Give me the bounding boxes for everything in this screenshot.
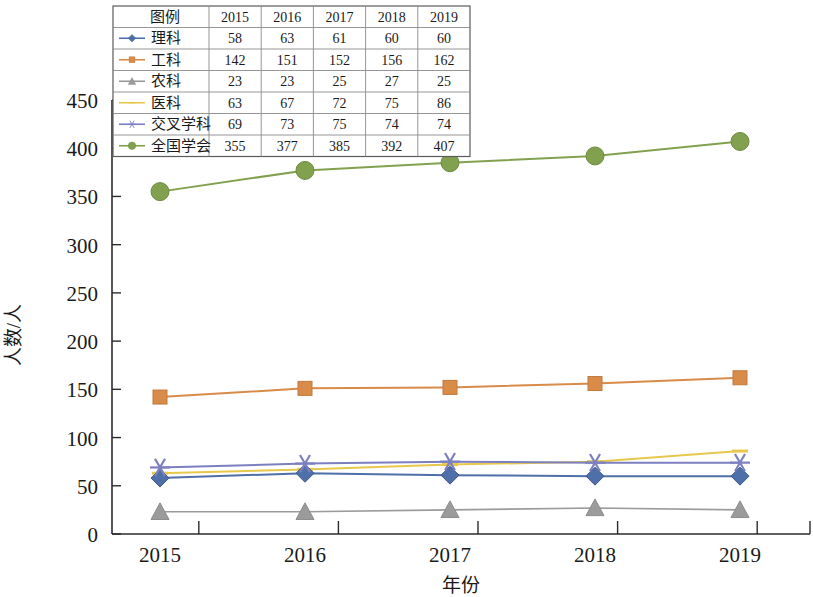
- y-tick-label: 350: [67, 185, 99, 209]
- data-point-marker: [731, 467, 749, 485]
- data-point-marker: [296, 161, 314, 179]
- data-point-marker: [128, 142, 136, 150]
- legend-column-header: 2019: [430, 10, 458, 25]
- line-chart: 050100150200250300350400450 201520162017…: [0, 0, 813, 597]
- data-point-marker: [586, 147, 604, 165]
- legend-value-cell: 151: [277, 53, 298, 68]
- data-point-marker: [441, 466, 459, 484]
- series-工科: [153, 371, 747, 404]
- legend-series-name: 农科: [151, 73, 181, 89]
- legend-value-cell: 60: [437, 31, 451, 46]
- data-point-marker: [733, 371, 747, 385]
- series-layer: [150, 132, 750, 519]
- x-axis-title: 年份: [442, 575, 480, 596]
- legend-value-cell: 27: [385, 74, 399, 89]
- data-point-marker: [129, 57, 135, 63]
- legend-series-name: 理科: [151, 30, 181, 46]
- data-point-marker: [586, 467, 604, 485]
- legend-value-cell: 61: [333, 31, 347, 46]
- legend-value-cell: 25: [333, 74, 347, 89]
- legend-value-cell: 156: [381, 53, 402, 68]
- data-point-marker: [731, 132, 749, 150]
- series-农科: [151, 499, 749, 520]
- legend-value-cell: 63: [280, 31, 294, 46]
- legend-value-cell: 25: [437, 74, 451, 89]
- y-tick-label: 250: [67, 282, 99, 306]
- legend-column-header: 2015: [221, 10, 249, 25]
- y-tick-label: 200: [67, 330, 99, 354]
- x-tick-label: 2018: [574, 543, 616, 567]
- y-axis: 050100150200250300350400450: [67, 89, 122, 547]
- series-理科: [151, 464, 749, 487]
- legend-series-name: 工科: [151, 52, 181, 68]
- legend-series-name: 全国学会: [151, 137, 211, 154]
- data-point-marker: [588, 377, 602, 391]
- legend-value-cell: 67: [280, 96, 294, 111]
- legend-value-cell: 355: [225, 139, 246, 154]
- data-point-marker: [151, 183, 169, 201]
- y-tick-label: 150: [67, 378, 99, 402]
- y-tick-label: 100: [67, 427, 99, 451]
- legend-column-header: 2016: [273, 10, 301, 25]
- legend-value-cell: 60: [385, 31, 399, 46]
- y-tick-label: 50: [77, 475, 98, 499]
- data-point-marker: [296, 464, 314, 482]
- legend-value-cell: 75: [333, 117, 347, 132]
- legend-value-cell: 162: [433, 53, 454, 68]
- y-tick-label: 450: [67, 89, 99, 113]
- x-tick-label: 2017: [429, 543, 471, 567]
- legend-value-cell: 142: [225, 53, 246, 68]
- legend-value-cell: 74: [385, 117, 399, 132]
- legend-column-header: 2017: [326, 10, 354, 25]
- data-point-marker: [153, 390, 167, 404]
- data-point-marker: [443, 380, 457, 394]
- legend-value-cell: 23: [228, 74, 242, 89]
- legend-column-header: 2018: [378, 10, 406, 25]
- y-tick-label: 400: [67, 137, 99, 161]
- legend-series-name: 医科: [151, 95, 181, 111]
- legend-value-cell: 74: [437, 117, 451, 132]
- chart-canvas: 050100150200250300350400450 201520162017…: [0, 0, 813, 597]
- x-tick-label: 2015: [139, 543, 181, 567]
- legend-value-cell: 385: [329, 139, 350, 154]
- legend-value-cell: 58: [228, 31, 242, 46]
- legend-value-cell: 377: [277, 139, 298, 154]
- legend-value-cell: 407: [433, 139, 454, 154]
- x-tick-label: 2019: [719, 543, 761, 567]
- legend-value-cell: 23: [280, 74, 294, 89]
- y-axis-title: 人数/人: [3, 304, 24, 366]
- legend-value-cell: 75: [385, 96, 399, 111]
- y-tick-label: 0: [88, 523, 99, 547]
- legend-value-cell: 72: [333, 96, 347, 111]
- legend-value-cell: 69: [228, 117, 242, 132]
- legend-series-name: 交叉学科: [151, 115, 211, 132]
- legend-corner-header: 图例: [150, 9, 180, 25]
- x-tick-label: 2016: [284, 543, 326, 567]
- legend-value-cell: 63: [228, 96, 242, 111]
- legend-value-cell: 152: [329, 53, 350, 68]
- y-tick-label: 300: [67, 234, 99, 258]
- x-axis: 20152016201720182019: [112, 521, 810, 567]
- legend-value-cell: 86: [437, 96, 451, 111]
- legend-table: 图例20152016201720182019理科5863616060工科1421…: [113, 6, 470, 157]
- legend-value-cell: 73: [280, 117, 294, 132]
- data-point-marker: [298, 381, 312, 395]
- legend-value-cell: 392: [381, 139, 402, 154]
